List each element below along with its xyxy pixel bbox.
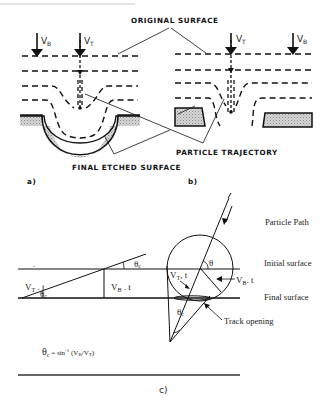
etched-track-diagram: V B V T a) xyxy=(0,0,332,400)
theta-c-right: θc xyxy=(134,259,141,269)
particle-path-label: Particle Path xyxy=(265,217,309,227)
vt-t-circle-label: VT, t xyxy=(170,270,188,281)
initial-surface-label: Initial surface xyxy=(264,258,312,268)
particle-path-line xyxy=(170,198,229,342)
vb-t-circle-label: VB. t xyxy=(236,275,254,286)
etched-substrate-a xyxy=(20,115,140,158)
particle-trajectory-label: PARTICLE TRAJECTORY xyxy=(176,148,278,157)
svg-text:.: . xyxy=(33,259,35,269)
svg-text:B: B xyxy=(47,40,51,47)
original-surface-label: ORIGINAL SURFACE xyxy=(131,16,219,25)
track-opening-label: Track opening xyxy=(224,316,274,326)
svg-text:T: T xyxy=(89,40,94,47)
panel-a-tag: a) xyxy=(27,177,36,186)
panel-b: V T V B b) xyxy=(175,33,312,186)
vb-arrow-a: V B xyxy=(31,33,51,57)
theta-c-left: θc xyxy=(40,289,47,299)
panel-c: . VT . t VB . t θc θc θ θc VT, t VB. t xyxy=(18,193,312,395)
vt-arrow-b: V T xyxy=(225,33,246,73)
svg-text:T: T xyxy=(241,38,246,45)
vt-arrow-a: V T xyxy=(74,33,94,75)
panel-b-tag: b) xyxy=(188,177,198,186)
svg-text:B: B xyxy=(303,38,307,45)
top-faint-text xyxy=(0,3,135,5)
final-etched-surface-label: FINAL ETCHED SURFACE xyxy=(72,163,181,172)
critical-angle-formula: θc = sin-1 (VB/VT) xyxy=(42,346,95,358)
substrate-block-left xyxy=(175,108,205,126)
vb-t-label: VB . t xyxy=(111,282,131,293)
panel-c-tag: c) xyxy=(159,385,167,395)
final-surface-label: Final surface xyxy=(264,292,309,302)
vb-arrow-b: V B xyxy=(287,33,307,55)
theta-label: θ xyxy=(209,258,213,268)
substrate-block-right xyxy=(263,113,312,127)
